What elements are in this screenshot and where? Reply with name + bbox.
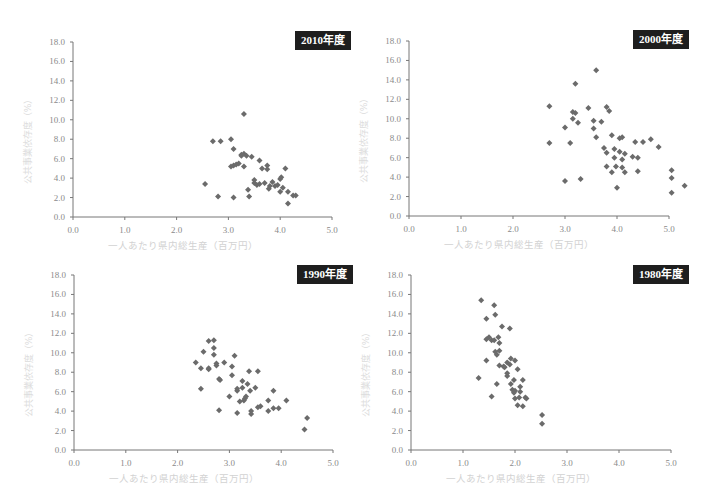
x-tick-label: 3.0 [559,224,571,234]
y-tick-label: 12.0 [49,95,65,105]
data-point [221,360,227,366]
data-point [239,385,245,391]
data-point [285,189,291,195]
year-badge-2010: 2010年度 [295,31,351,50]
data-point [216,407,222,413]
data-point [206,365,212,371]
x-tick-label: 2.0 [171,225,183,235]
data-point [515,366,521,372]
y-axis-label: 公共事業依存度（%） [23,328,34,418]
chart-panel-2010: 0.02.04.06.08.010.012.014.016.018.00.01.… [0,0,353,250]
y-tick-label: 14.0 [50,309,66,319]
data-point [276,405,282,411]
y-tick-label: 18.0 [385,36,401,46]
data-point [575,120,581,126]
x-tick-label: 2.0 [509,458,521,468]
data-point [640,139,646,145]
data-point [246,194,252,200]
data-point [570,116,576,122]
data-point [669,175,675,181]
data-point [193,360,199,366]
data-point [285,200,291,206]
x-tick-label: 0.0 [405,458,417,468]
x-tick-label: 3.0 [561,458,573,468]
data-point [489,394,495,400]
data-point [252,385,258,391]
data-point [507,325,513,331]
data-point [198,386,204,392]
data-point [256,158,262,164]
year-badge-1990: 1990年度 [297,265,353,284]
data-point [601,145,607,151]
data-point [604,150,610,156]
data-point [656,144,662,150]
data-point [270,388,276,394]
data-point [218,138,224,144]
data-point [198,365,204,371]
data-point [496,362,502,368]
y-tick-label: 14.0 [385,75,401,85]
data-point [546,103,552,109]
data-point [211,345,217,351]
data-point [609,132,615,138]
data-point [262,180,268,186]
y-tick-label: 2.0 [392,426,404,436]
x-tick-label: 3.0 [223,225,235,235]
x-tick-label: 5.0 [326,225,338,235]
data-point [611,155,617,161]
data-point [211,337,217,343]
y-tick-label: 16.0 [387,289,403,299]
data-point [282,165,288,171]
y-tick-label: 12.0 [50,328,66,338]
data-point [591,118,597,124]
data-point [648,136,654,142]
y-tick-label: 14.0 [387,309,403,319]
y-tick-label: 0.0 [55,445,67,455]
data-point [496,340,502,346]
data-point [229,363,235,369]
y-tick-label: 12.0 [385,94,401,104]
y-tick-label: 16.0 [49,56,65,66]
data-point [635,155,641,161]
data-point [669,167,675,173]
data-point [604,163,610,169]
data-point [619,157,625,163]
data-point [619,164,625,170]
data-point [591,126,597,132]
data-point [265,397,271,403]
x-tick-label: 2.0 [172,458,184,468]
y-tick-label: 6.0 [55,387,67,397]
data-point [283,397,289,403]
data-point [245,187,251,193]
data-point [228,136,234,142]
data-point [476,375,482,381]
y-tick-label: 6.0 [390,153,402,163]
data-point [229,372,235,378]
data-point [201,349,207,355]
x-tick-label: 1.0 [457,458,469,468]
data-point [249,154,255,160]
x-tick-label: 4.0 [276,458,288,468]
y-tick-label: 18.0 [49,37,65,47]
data-point [241,163,247,169]
y-tick-label: 10.0 [50,348,66,358]
y-tick-label: 4.0 [392,406,404,416]
data-point [613,163,619,169]
data-point [630,154,636,160]
y-tick-label: 0.0 [392,445,404,455]
data-point [226,394,232,400]
year-badge-1980: 1980年度 [633,265,689,284]
x-tick-label: 4.0 [611,224,623,234]
x-tick-label: 1.0 [120,458,132,468]
x-tick-label: 2.0 [507,224,519,234]
data-point [539,412,545,418]
x-tick-label: 4.0 [613,458,625,468]
y-tick-label: 4.0 [390,172,402,182]
scatter-plot-1990: 0.02.04.06.08.010.012.014.016.018.00.01.… [0,250,353,500]
y-tick-label: 8.0 [390,133,402,143]
chart-panel-1990: 0.02.04.06.08.010.012.014.016.018.00.01.… [0,250,353,500]
y-tick-label: 6.0 [392,387,404,397]
y-tick-label: 12.0 [387,328,403,338]
data-point [232,353,238,359]
x-tick-label: 4.0 [275,225,287,235]
